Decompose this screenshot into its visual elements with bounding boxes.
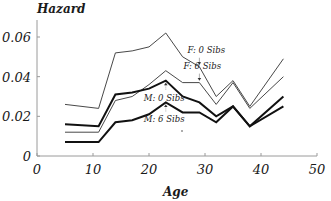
y-tick-label: 0.06 xyxy=(2,30,31,45)
y-tick-label: 0 xyxy=(23,149,31,164)
y-axis-title: Hazard xyxy=(36,2,86,16)
y-tick-label: 0.02 xyxy=(2,109,31,124)
annotation-m-6-sibs: M: 6 Sibs xyxy=(143,114,185,124)
x-tick-label: 40 xyxy=(252,162,270,177)
arrowhead-icon xyxy=(198,78,202,81)
x-tick-label: 50 xyxy=(309,162,326,177)
annotation-f-0-sibs: F: 0 Sibs xyxy=(186,45,225,55)
x-tick-label: 10 xyxy=(85,162,102,177)
x-tick-label: 20 xyxy=(140,162,158,177)
x-tick-label: 0 xyxy=(33,162,41,177)
stray-mark xyxy=(181,130,183,132)
x-axis-title: Age xyxy=(162,185,189,199)
y-tick-label: 0.04 xyxy=(2,70,31,85)
hazard-chart: 0102030405000.020.040.06 F: 0 SibsF: 6 S… xyxy=(0,0,331,201)
annotation-m-0-sibs: M: 0 Sibs xyxy=(143,93,185,103)
x-tick-label: 30 xyxy=(197,162,214,177)
series-lines xyxy=(65,33,283,142)
arrowhead-icon xyxy=(164,104,168,107)
annotation-f-6-sibs: F: 6 Sibs xyxy=(182,61,221,71)
